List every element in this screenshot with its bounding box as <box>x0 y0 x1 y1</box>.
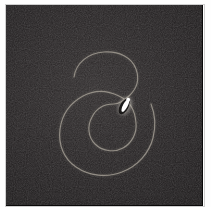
spiral-filament-halo <box>60 52 155 176</box>
spiral-filament-layer <box>6 5 202 205</box>
specimen-description: Single faint curvilinear filament wound … <box>0 0 1 1</box>
micrograph-image-frame <box>6 5 202 205</box>
bright-particle-tip <box>126 98 130 102</box>
figure-title: Dark-field micrograph of a spiral filame… <box>0 0 1 1</box>
figure-root: Dark-field micrograph of a spiral filame… <box>0 0 211 207</box>
spiral-filament-core <box>60 52 155 176</box>
marker-description: Saturated white elongated particle lying… <box>0 0 1 1</box>
